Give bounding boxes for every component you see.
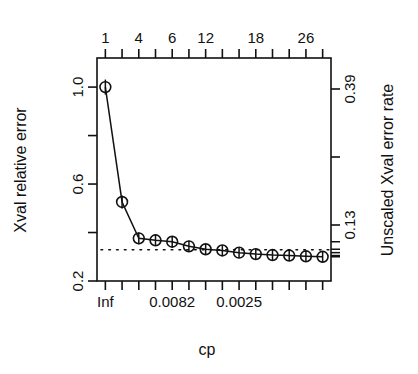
left-axis-ticks bbox=[88, 87, 97, 281]
data-point-0 bbox=[100, 82, 111, 93]
top-axis-tick-labels: 146121826 bbox=[101, 29, 314, 46]
data-point-4 bbox=[167, 236, 178, 247]
data-point-12 bbox=[301, 251, 312, 262]
data-point-7 bbox=[217, 245, 228, 256]
data-point-13 bbox=[317, 251, 328, 262]
bottom-tick-label-2: 0.0025 bbox=[216, 293, 262, 310]
data-point-3 bbox=[150, 235, 161, 246]
top-tick-label-4: 18 bbox=[247, 29, 264, 46]
bottom-axis-tick-labels: Inf0.00820.0025 bbox=[97, 293, 262, 310]
right-axis-ticks bbox=[331, 89, 340, 225]
left-axis-tick-labels: 0.20.61.0 bbox=[69, 77, 86, 292]
x-axis-title: cp bbox=[199, 341, 216, 358]
y-axis-title: Xval relative error bbox=[12, 107, 29, 233]
xval-error-curve bbox=[105, 87, 322, 257]
data-point-2 bbox=[133, 233, 144, 244]
data-point-5 bbox=[184, 241, 195, 252]
data-point-9 bbox=[250, 249, 261, 260]
bottom-axis-ticks bbox=[105, 281, 322, 290]
right-tick-label-0: 0.13 bbox=[341, 210, 358, 239]
data-point-10 bbox=[267, 250, 278, 261]
data-point-markers bbox=[100, 82, 328, 262]
left-tick-label-1: 0.6 bbox=[69, 174, 86, 195]
data-point-8 bbox=[234, 247, 245, 258]
plotcp-chart: 146121826 Inf0.00820.0025 0.20.61.0 0.13… bbox=[0, 0, 418, 374]
top-tick-label-1: 4 bbox=[135, 29, 143, 46]
bottom-tick-label-0: Inf bbox=[97, 293, 115, 310]
left-tick-label-0: 0.2 bbox=[69, 271, 86, 292]
top-tick-label-3: 12 bbox=[197, 29, 214, 46]
right-tick-label-1: 0.39 bbox=[341, 74, 358, 103]
data-point-11 bbox=[284, 250, 295, 261]
plot-panel-frame bbox=[97, 58, 331, 281]
left-tick-label-2: 1.0 bbox=[69, 77, 86, 98]
cp-plot-figure: 146121826 Inf0.00820.0025 0.20.61.0 0.13… bbox=[0, 0, 418, 374]
data-point-6 bbox=[200, 244, 211, 255]
top-axis-ticks bbox=[105, 49, 322, 58]
right-axis-tick-labels: 0.130.39 bbox=[341, 74, 358, 239]
data-point-1 bbox=[117, 197, 128, 208]
top-tick-label-2: 6 bbox=[168, 29, 176, 46]
top-tick-label-5: 26 bbox=[298, 29, 315, 46]
top-tick-label-0: 1 bbox=[101, 29, 109, 46]
y2-axis-title: Unscaled Xval error rate bbox=[379, 84, 396, 257]
right-edge-rug-marks bbox=[331, 242, 340, 257]
bottom-tick-label-1: 0.0082 bbox=[149, 293, 195, 310]
